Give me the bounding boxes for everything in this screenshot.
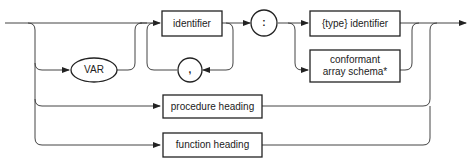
- identifier-label: identifier: [162, 11, 222, 36]
- var-label: VAR: [71, 58, 117, 82]
- function-heading-label: function heading: [163, 133, 262, 157]
- conformant-label: conformant array schema*: [310, 50, 400, 82]
- colon-label: :: [251, 10, 277, 36]
- conformant-label-line2: array schema*: [323, 66, 387, 78]
- left-branch: [28, 23, 160, 145]
- procedure-heading-label: procedure heading: [163, 95, 262, 118]
- comma-label: ,: [178, 58, 202, 82]
- type-identifier-label: {type} identifier: [310, 11, 400, 36]
- conformant-label-line1: conformant: [330, 54, 380, 66]
